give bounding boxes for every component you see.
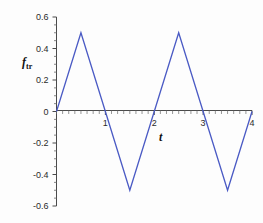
y-axis-title: ftr — [22, 55, 33, 71]
triangle-wave-plot: 0.60.40.20-0.2-0.4-0.6 1234 ftr t — [0, 0, 263, 223]
triangle-wave-line — [57, 33, 253, 191]
x-tick-label: 3 — [201, 118, 206, 128]
y-tick-label: 0.4 — [36, 44, 49, 54]
chart-figure: 0.60.40.20-0.2-0.4-0.6 1234 ftr t — [0, 0, 263, 223]
x-tick-label: 2 — [152, 118, 157, 128]
y-tick-label: 0 — [43, 107, 48, 117]
y-tick-label: -0.2 — [33, 138, 49, 148]
y-tick-label: -0.4 — [33, 170, 49, 180]
y-tick-label: -0.6 — [33, 201, 49, 211]
y-tick-label: 0.2 — [36, 75, 49, 85]
y-axis-title-subscript: tr — [26, 62, 33, 71]
x-tick-label: 1 — [103, 118, 108, 128]
x-axis-title: t — [159, 130, 163, 144]
y-axis-major-ticks — [53, 17, 57, 206]
y-tick-label: 0.6 — [36, 12, 49, 22]
x-axis-tick-labels: 1234 — [103, 118, 255, 128]
x-tick-label: 4 — [249, 118, 254, 128]
y-axis-tick-labels: 0.60.40.20-0.2-0.4-0.6 — [33, 12, 49, 211]
